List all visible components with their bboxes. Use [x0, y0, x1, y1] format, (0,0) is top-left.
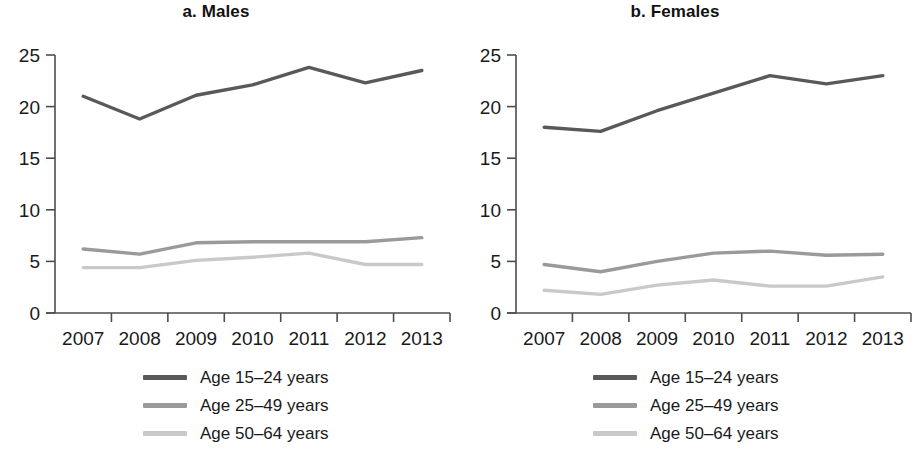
svg-text:2009: 2009 — [636, 328, 678, 349]
legend-item: Age 15–24 years — [0, 363, 460, 391]
svg-text:2011: 2011 — [288, 328, 329, 349]
legend-item: Age 25–49 years — [461, 391, 921, 419]
svg-text:2009: 2009 — [175, 328, 217, 349]
legend-swatch-age-25-49-icon — [143, 403, 187, 408]
svg-text:2007: 2007 — [523, 328, 565, 349]
svg-text:2008: 2008 — [119, 328, 161, 349]
svg-text:2013: 2013 — [862, 328, 904, 349]
svg-text:15: 15 — [19, 148, 40, 169]
svg-text:2013: 2013 — [401, 328, 443, 349]
svg-text:5: 5 — [29, 251, 40, 272]
svg-text:2012: 2012 — [344, 328, 386, 349]
svg-text:0: 0 — [490, 303, 501, 324]
svg-text:25: 25 — [480, 45, 501, 66]
legend-swatch-age-50-64-icon — [143, 431, 187, 436]
plot-area-females: 05101520252007200820092010201120122013 — [461, 0, 921, 360]
legend-item: Age 25–49 years — [0, 391, 460, 419]
legend-swatch-age-15-24-icon — [143, 375, 187, 380]
legend-item: Age 50–64 years — [0, 419, 460, 447]
svg-text:5: 5 — [490, 251, 501, 272]
legend-males: Age 15–24 years Age 25–49 years Age 50–6… — [0, 363, 460, 447]
legend-label-age-15-24: Age 15–24 years — [200, 369, 329, 386]
svg-text:2010: 2010 — [231, 328, 273, 349]
svg-text:10: 10 — [19, 200, 40, 221]
legend-label-age-15-24: Age 15–24 years — [650, 369, 779, 386]
legend-swatch-age-15-24-icon — [593, 375, 637, 380]
svg-text:0: 0 — [29, 303, 40, 324]
svg-text:2011: 2011 — [749, 328, 790, 349]
legend-item: Age 15–24 years — [461, 363, 921, 391]
svg-text:2012: 2012 — [805, 328, 847, 349]
legend-label-age-25-49: Age 25–49 years — [200, 397, 329, 414]
legend-females: Age 15–24 years Age 25–49 years Age 50–6… — [461, 363, 921, 447]
legend-item: Age 50–64 years — [461, 419, 921, 447]
plot-area-males: 05101520252007200820092010201120122013 — [0, 0, 460, 360]
legend-label-age-50-64: Age 50–64 years — [650, 425, 779, 442]
svg-text:15: 15 — [480, 148, 501, 169]
legend-label-age-50-64: Age 50–64 years — [200, 425, 329, 442]
svg-text:20: 20 — [480, 97, 501, 118]
panel-females: b. Females 05101520252007200820092010201… — [461, 0, 921, 453]
panel-males: a. Males 0510152025200720082009201020112… — [0, 0, 460, 453]
svg-text:2008: 2008 — [580, 328, 622, 349]
svg-text:25: 25 — [19, 45, 40, 66]
svg-text:20: 20 — [19, 97, 40, 118]
legend-swatch-age-25-49-icon — [593, 403, 637, 408]
legend-label-age-25-49: Age 25–49 years — [650, 397, 779, 414]
svg-text:2010: 2010 — [692, 328, 734, 349]
svg-text:10: 10 — [480, 200, 501, 221]
figure-two-panel-line-charts: a. Males 0510152025200720082009201020112… — [0, 0, 921, 453]
legend-swatch-age-50-64-icon — [593, 431, 637, 436]
svg-text:2007: 2007 — [62, 328, 104, 349]
